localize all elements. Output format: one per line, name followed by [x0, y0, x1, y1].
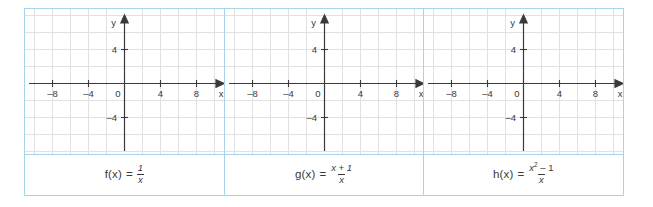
formula-h-equals: = [518, 169, 525, 181]
x-axis-label: x [618, 88, 623, 99]
x-tick-label: –8 [47, 88, 58, 99]
formula-h: h(x) = x2 – 1 x [493, 164, 555, 187]
formula-g-fraction: x + 1 x [330, 163, 353, 186]
y-tick-label: –4 [306, 112, 317, 123]
panel-g: –8 –4 0 4 8 4 –4 y x g(x) = x + 1 [225, 9, 425, 195]
y-tick-label: –4 [506, 112, 517, 123]
plot-cell-g: –8 –4 0 4 8 4 –4 y x [225, 9, 424, 155]
y-axis-label: y [511, 17, 516, 28]
x-tick-label: 8 [194, 88, 199, 99]
formula-f: f(x) = 1 x [105, 164, 144, 187]
formula-h-numerator-rest: – 1 [540, 162, 553, 173]
formula-f-numerator: 1 [137, 163, 144, 174]
x-tick-label: 0 [315, 88, 320, 99]
x-tick-label: 0 [515, 88, 520, 99]
formula-f-equals: = [126, 169, 133, 181]
x-tick-label: –8 [447, 88, 458, 99]
y-tick-label: 4 [311, 44, 316, 55]
panel-h: –8 –4 0 4 8 4 –4 y x h(x) = x2 – 1 [424, 9, 623, 195]
y-tick-label: 4 [112, 44, 117, 55]
x-axis [428, 80, 623, 87]
formula-f-fraction: 1 x [137, 163, 144, 186]
x-axis [229, 80, 424, 87]
x-tick-label: –4 [283, 88, 294, 99]
formula-g-denominator: x [338, 174, 345, 186]
formula-g-equals: = [320, 169, 327, 181]
formula-h-numerator-exponent: 2 [534, 161, 538, 168]
formula-h-denominator: x [538, 174, 545, 186]
x-tick-label: –4 [483, 88, 494, 99]
x-tick-label: 4 [158, 88, 163, 99]
coordinate-grid-h: –8 –4 0 4 8 4 –4 y x [424, 9, 623, 155]
x-tick-label: 8 [394, 88, 399, 99]
formula-g: g(x) = x + 1 x [295, 164, 353, 187]
three-panel-graph-table: –8 –4 0 4 8 4 –4 y x f(x) = 1 [24, 8, 624, 196]
coordinate-grid-g: –8 –4 0 4 8 4 –4 y x [225, 9, 424, 155]
formula-f-denominator: x [137, 174, 144, 186]
x-tick-label: 4 [557, 88, 562, 99]
x-tick-label: 8 [593, 88, 598, 99]
y-axis-label: y [111, 17, 116, 28]
x-tick-label: –4 [83, 88, 94, 99]
coordinate-grid-f: –8 –4 0 4 8 4 –4 y x [25, 9, 224, 155]
x-axis [29, 80, 224, 87]
y-tick-label: –4 [106, 112, 117, 123]
formula-h-lhs: h(x) [493, 169, 514, 181]
formula-g-numerator: x + 1 [330, 163, 353, 174]
panel-f: –8 –4 0 4 8 4 –4 y x f(x) = 1 [25, 9, 225, 195]
caption-cell-h: h(x) = x2 – 1 x [424, 155, 623, 195]
formula-h-numerator: x2 – 1 [528, 163, 554, 174]
y-tick-label: 4 [511, 44, 516, 55]
caption-cell-g: g(x) = x + 1 x [225, 155, 424, 195]
x-tick-label: 0 [115, 88, 120, 99]
x-axis-label: x [219, 88, 224, 99]
plot-cell-h: –8 –4 0 4 8 4 –4 y x [424, 9, 623, 155]
caption-cell-f: f(x) = 1 x [25, 155, 224, 195]
formula-g-lhs: g(x) [295, 169, 316, 181]
x-axis-label: x [418, 88, 423, 99]
plot-cell-f: –8 –4 0 4 8 4 –4 y x [25, 9, 224, 155]
formula-f-lhs: f(x) [105, 169, 122, 181]
formula-h-fraction: x2 – 1 x [528, 163, 554, 186]
x-tick-label: –8 [247, 88, 258, 99]
y-axis-label: y [311, 17, 316, 28]
x-tick-label: 4 [358, 88, 363, 99]
